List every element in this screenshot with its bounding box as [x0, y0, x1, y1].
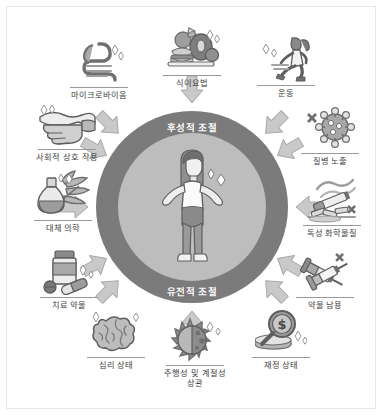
label-rule — [257, 85, 315, 86]
label-rule — [40, 297, 98, 298]
factor-label-disease-exposure: 질병 노출 — [284, 156, 376, 166]
factor-exercise[interactable]: 운동 — [240, 35, 332, 98]
factor-disease-exposure[interactable]: 질병 노출 — [284, 103, 376, 166]
label-rule — [303, 225, 361, 226]
factor-drug-abuse[interactable]: 약물 남용 — [279, 247, 371, 310]
factor-alternative-medicine[interactable]: 대체 의학 — [17, 170, 109, 233]
label-rule — [87, 357, 145, 358]
factor-toxic-chemicals[interactable]: 독성 화학물질 — [286, 175, 378, 238]
label-rule — [252, 357, 310, 358]
factor-label-alternative-medicine: 대체 의학 — [17, 223, 109, 233]
factor-label-exercise: 운동 — [240, 88, 332, 98]
intestines-icon — [53, 37, 145, 85]
factor-therapeutic-drugs[interactable]: 치료 약물 — [23, 247, 115, 310]
factor-label-therapeutic-drugs: 치료 약물 — [23, 300, 115, 310]
factor-label-social-interaction: 사회적 상호 작용 — [21, 152, 113, 162]
factor-psychological-state[interactable]: 심리 상태 — [70, 307, 162, 370]
brain-icon — [70, 307, 162, 355]
running-person-icon — [240, 35, 332, 83]
factor-diet[interactable]: 식이요법 — [146, 25, 238, 88]
diagram-frame: 후성적 조절 유전적 조절 — [6, 6, 376, 409]
syringes-icon — [279, 247, 371, 295]
label-rule — [70, 87, 128, 88]
svg-text:$: $ — [277, 317, 286, 332]
person-standing-icon — [157, 147, 227, 272]
factor-label-circadian-seasonal: 주행성 및 계절성 상관 — [149, 368, 241, 389]
herbal-flask-icon — [17, 170, 109, 218]
label-rule — [301, 153, 359, 154]
money-magnifier-icon: $ — [235, 307, 327, 355]
label-rule — [166, 365, 224, 366]
diagram-canvas: 후성적 조절 유전적 조절 — [7, 7, 377, 410]
label-rule — [296, 297, 354, 298]
food-plate-icon — [146, 25, 238, 73]
factor-social-interaction[interactable]: 사회적 상호 작용 — [21, 99, 113, 162]
sun-moon-icon — [149, 315, 241, 363]
genetic-regulation-label: 유전적 조절 — [96, 284, 288, 298]
factor-label-toxic-chemicals: 독성 화학물질 — [286, 228, 378, 238]
label-rule — [163, 75, 221, 76]
label-rule — [38, 149, 96, 150]
factor-financial-status[interactable]: $ 재정 상태 — [235, 307, 327, 370]
epigenetic-regulation-label: 후성적 조절 — [96, 120, 288, 134]
factor-label-financial-status: 재정 상태 — [235, 360, 327, 370]
factor-label-psychological-state: 심리 상태 — [70, 360, 162, 370]
virus-icon — [284, 103, 376, 151]
label-rule — [34, 220, 92, 221]
cigarette-icon — [286, 175, 378, 223]
factor-microbiome[interactable]: 마이크로바이옴 — [53, 37, 145, 100]
handshake-icon — [21, 99, 113, 147]
factor-circadian-seasonal[interactable]: 주행성 및 계절성 상관 — [149, 315, 241, 389]
pill-bottle-icon — [23, 247, 115, 295]
factor-label-diet: 식이요법 — [146, 78, 238, 88]
